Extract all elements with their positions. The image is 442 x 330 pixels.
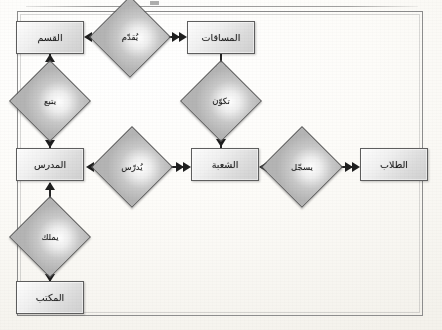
arrowhead-offers-to-courses-b bbox=[179, 32, 187, 42]
entity-courses[interactable]: المساقات bbox=[187, 21, 255, 54]
entity-instructor-label: المدرس bbox=[34, 159, 66, 170]
relationship-belongs-label: يتبع bbox=[22, 73, 78, 129]
arrowhead-registers-to-students-b bbox=[352, 162, 360, 172]
entity-department[interactable]: القسم bbox=[16, 21, 84, 54]
scan-artifact-mark bbox=[150, 1, 159, 5]
entity-section-label: الشعبة bbox=[212, 159, 239, 170]
arrowhead-instructor-to-owns bbox=[45, 182, 55, 190]
relationship-forms-label: تكوّن bbox=[193, 73, 249, 129]
scan-artifact-line bbox=[26, 6, 418, 7]
entity-instructor[interactable]: المدرس bbox=[16, 148, 84, 181]
entity-office[interactable]: المكتب bbox=[16, 281, 84, 314]
entity-department-label: القسم bbox=[37, 32, 62, 43]
entity-office-label: المكتب bbox=[36, 292, 64, 303]
arrowhead-teaches-to-section-b bbox=[183, 162, 191, 172]
relationship-teaches-label: يُدرّس bbox=[104, 139, 160, 195]
relationship-registers-label: يسجّل bbox=[274, 139, 330, 195]
entity-section[interactable]: الشعبة bbox=[191, 148, 259, 181]
relationship-owns-label: يملك bbox=[22, 209, 78, 265]
entity-courses-label: المساقات bbox=[202, 32, 241, 43]
entity-students-label: الطلاب bbox=[380, 159, 408, 170]
relationship-offers-label: يُقدّم bbox=[102, 9, 158, 65]
entity-students[interactable]: الطلاب bbox=[360, 148, 428, 181]
